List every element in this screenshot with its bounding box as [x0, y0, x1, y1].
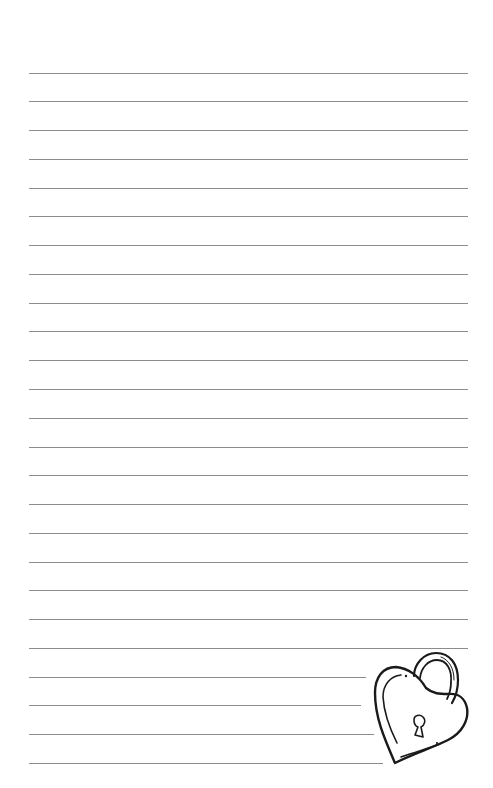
ruled-line: [29, 734, 374, 735]
ruled-line: [29, 619, 468, 620]
ruled-line: [29, 245, 468, 246]
lined-paper-page: [0, 0, 493, 788]
ruled-line: [29, 504, 468, 505]
ruled-line: [29, 533, 468, 534]
ruled-line: [29, 331, 468, 332]
ruled-line: [29, 562, 468, 563]
ruled-line: [29, 447, 468, 448]
ruled-line: [29, 303, 468, 304]
ruled-line: [29, 475, 468, 476]
ruled-line: [29, 360, 468, 361]
ruled-line: [29, 159, 468, 160]
heart-padlock-icon: [0, 0, 493, 788]
ruled-line: [29, 188, 468, 189]
ruled-line: [29, 274, 468, 275]
ruled-line: [29, 101, 468, 102]
ruled-line: [29, 389, 468, 390]
ruled-line: [29, 763, 383, 764]
ruled-line: [29, 677, 366, 678]
ruled-line: [29, 705, 361, 706]
ruled-line: [29, 590, 468, 591]
ruled-line: [29, 216, 468, 217]
ruled-line: [29, 73, 468, 74]
ruled-line: [29, 648, 468, 649]
ruled-line: [29, 418, 468, 419]
ruled-line: [29, 130, 468, 131]
